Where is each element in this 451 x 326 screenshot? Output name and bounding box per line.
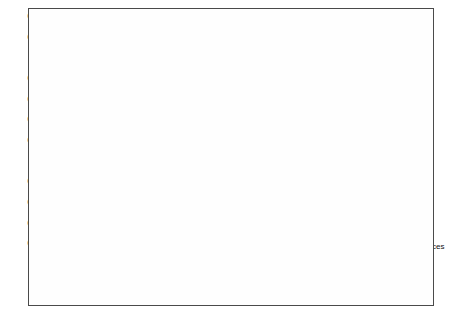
chart-outer-frame (28, 8, 434, 306)
chart-container: 00.020.040.060.080.10.120.140.160.180.20… (0, 0, 451, 326)
